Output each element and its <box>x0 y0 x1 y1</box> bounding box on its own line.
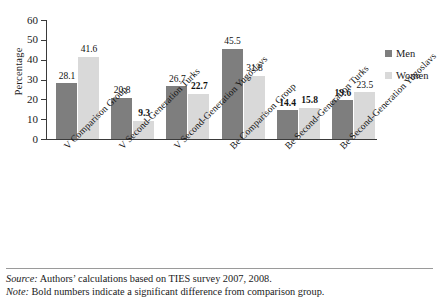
legend-swatch-icon <box>385 72 392 79</box>
source-text: Authors’ calculations based on TIES surv… <box>38 273 272 284</box>
source-label: Source: <box>6 273 38 284</box>
bar-value-label: 41.6 <box>76 45 102 55</box>
y-axis-tick-label: 60 <box>0 15 38 26</box>
legend-label: Men <box>396 48 415 59</box>
source-line: Source: Authors’ calculations based on T… <box>6 273 436 286</box>
figure-container: 6050403020100 Percentage 28.141.620.89.3… <box>0 0 439 302</box>
bar-value-label: 45.5 <box>220 37 246 47</box>
legend-item: Women <box>385 70 439 81</box>
x-axis-tick-labels: V Comparison GroupV Second-Generation Tu… <box>46 140 377 265</box>
legend-item: Men <box>385 48 439 59</box>
y-axis-tick-label: 0 <box>0 134 38 145</box>
bar-value-label: 15.8 <box>297 96 323 106</box>
chart-legend: MenWomen <box>385 48 439 92</box>
legend-swatch-icon <box>385 50 392 57</box>
y-axis-title: Percentage <box>13 32 24 112</box>
figure-footer: Source: Authors’ calculations based on T… <box>6 273 436 298</box>
y-axis-tick-label: 10 <box>0 114 38 125</box>
note-line: Note: Bold numbers indicate a significan… <box>6 286 436 299</box>
bar-value-label: 28.1 <box>54 72 80 82</box>
note-label: Note: <box>6 286 29 297</box>
note-text: Bold numbers indicate a significant diff… <box>29 286 324 297</box>
legend-label: Women <box>396 70 428 81</box>
chart-area: 6050403020100 Percentage 28.141.620.89.3… <box>0 6 439 268</box>
footer-divider <box>6 268 433 269</box>
